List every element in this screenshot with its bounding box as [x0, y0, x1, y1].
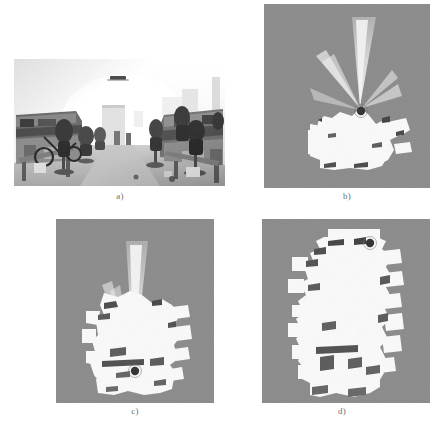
- office-photo-image: [14, 59, 225, 186]
- occupancy-grid-b: [264, 4, 430, 188]
- panel-d-caption: d): [322, 406, 362, 416]
- panel-b-caption: b): [327, 191, 367, 201]
- panel-a-caption: a): [100, 191, 140, 201]
- panel-d-occupancy-map: [262, 219, 430, 403]
- occupancy-grid-d: [262, 219, 430, 403]
- figure-root: a): [0, 0, 436, 435]
- occupancy-grid-c: [56, 219, 214, 403]
- panel-c-caption: c): [115, 406, 155, 416]
- panel-b-occupancy-map: [264, 4, 430, 188]
- panel-a-photograph: [14, 59, 225, 186]
- panel-c-occupancy-map: [56, 219, 214, 403]
